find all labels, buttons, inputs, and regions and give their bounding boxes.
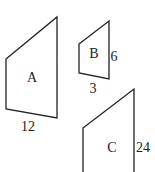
shape-a-outline [6, 17, 57, 118]
shape-a: A 12 [6, 17, 57, 134]
similar-figures-diagram: A 12 B 6 3 C 24 [0, 0, 155, 172]
shape-c: C 24 [83, 89, 150, 172]
shape-c-outline [83, 89, 134, 172]
shape-b-bottom-length: 3 [90, 81, 97, 96]
shape-b: B 6 3 [79, 21, 118, 96]
shape-c-label: C [107, 140, 116, 155]
shape-b-label: B [89, 46, 98, 61]
shape-b-side-length: 6 [111, 49, 118, 64]
shape-a-bottom-length: 12 [21, 119, 35, 134]
shape-c-side-length: 24 [136, 140, 150, 155]
shape-a-label: A [27, 70, 38, 85]
